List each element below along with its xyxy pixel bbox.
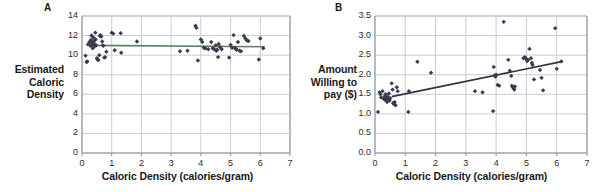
y-tick-label: 1.0 (333, 108, 371, 118)
data-point (112, 48, 116, 52)
x-tick-label: 7 (280, 158, 300, 168)
data-point (555, 67, 559, 71)
x-tick-label: 0 (72, 158, 92, 168)
data-point (559, 59, 563, 63)
data-point (539, 76, 543, 80)
x-tick-label: 1 (102, 158, 122, 168)
data-point (231, 33, 235, 37)
data-point (538, 68, 542, 72)
x-tick-label: 0 (365, 158, 385, 168)
data-point (118, 31, 122, 35)
y-tick-label: 6 (40, 88, 78, 98)
data-point (258, 36, 262, 40)
data-point (415, 60, 419, 64)
data-point (541, 88, 545, 92)
y-tick-label: 0.5 (333, 127, 371, 137)
trendline (89, 45, 264, 46)
x-tick-label: 4 (191, 158, 211, 168)
y-tick-label: 3.0 (333, 30, 371, 40)
data-point (396, 89, 400, 93)
data-point (178, 49, 182, 53)
x-tick-label: 6 (547, 158, 567, 168)
data-point (196, 58, 200, 62)
data-point (236, 40, 240, 44)
x-tick-label: 7 (577, 158, 597, 168)
trendline (392, 61, 563, 96)
data-point (104, 50, 108, 54)
x-tick-label: 4 (486, 158, 506, 168)
x-tick-label: 3 (456, 158, 476, 168)
y-tick-label: 2 (40, 127, 78, 137)
y-tick-label: 0.0 (333, 147, 371, 157)
data-point (185, 49, 189, 53)
x-tick-label: 2 (131, 158, 151, 168)
y-tick-label: 4 (40, 108, 78, 118)
y-tick-label: 8 (40, 69, 78, 79)
data-point (119, 50, 123, 54)
x-tick-label: 6 (250, 158, 270, 168)
data-point (527, 47, 531, 51)
y-tick-label: 2.5 (333, 49, 371, 59)
data-point (492, 65, 496, 69)
data-point (93, 30, 97, 34)
data-point (532, 77, 536, 81)
panel-a: A Estimated Caloric Density Caloric Dens… (0, 0, 298, 192)
data-point (389, 81, 393, 85)
data-point (395, 85, 399, 89)
panel-b-x-axis-title: Caloric Density (calories/gram) (354, 170, 589, 182)
data-point (100, 39, 104, 43)
y-tick-label: 2.0 (333, 69, 371, 79)
x-tick-label: 5 (516, 158, 536, 168)
y-tick-label: 1.5 (333, 88, 371, 98)
x-tick-label: 5 (221, 158, 241, 168)
data-point (135, 39, 139, 43)
x-tick-label: 1 (395, 158, 415, 168)
data-point (83, 53, 87, 57)
data-point (97, 53, 101, 57)
x-tick-label: 2 (426, 158, 446, 168)
y-tick-label: 10 (40, 49, 78, 59)
panel-b: B Amount Willing to pay ($) Caloric Dens… (299, 0, 597, 192)
data-point (502, 20, 506, 24)
two-panel-scatter-figure: A Estimated Caloric Density Caloric Dens… (0, 0, 597, 192)
data-point (491, 109, 495, 113)
data-point (390, 87, 394, 91)
y-tick-label: 14 (40, 10, 78, 20)
panel-a-x-axis-title: Caloric Density (calories/gram) (60, 170, 295, 182)
y-tick-label: 0 (40, 147, 78, 157)
y-tick-label: 3.5 (333, 10, 371, 20)
data-point (209, 40, 213, 44)
x-tick-label: 3 (161, 158, 181, 168)
y-tick-label: 12 (40, 30, 78, 40)
data-point (506, 58, 510, 62)
data-point (473, 89, 477, 93)
